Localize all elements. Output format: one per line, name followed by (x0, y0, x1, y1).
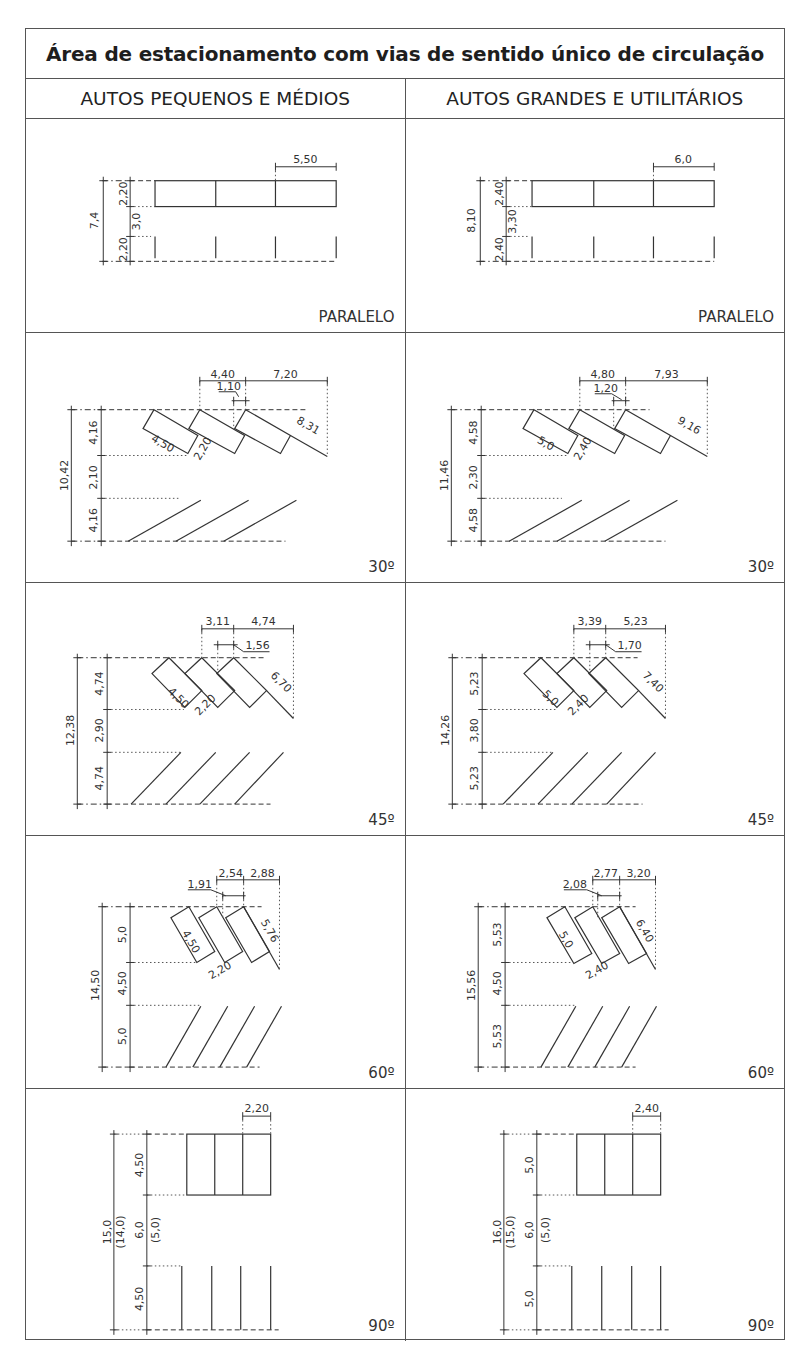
diagram-60-small: 2,54 2,88 1,91 4,50 2,20 5,76 (26, 836, 406, 1088)
dim-depth-top: 4,74 (93, 671, 106, 695)
dim-top-offset: 4,74 (251, 615, 275, 628)
parallel-large-drawing: 6,0 8,10 2,40 3,30 2,40 (406, 119, 785, 332)
dim-depth-bottom: 5,0 (522, 1290, 535, 1307)
dim-diagonal: 5,76 (258, 917, 281, 945)
dim-total-alt: (15,0) (503, 1215, 516, 1248)
dim-depth-bottom: 2,20 (117, 237, 130, 261)
dim-diagonal: 6,40 (632, 917, 655, 945)
dim-stall-length: 4,50 (179, 928, 202, 956)
column-header-small-cars: AUTOS PEQUENOS E MÉDIOS (26, 79, 406, 118)
dim-depth-top: 4,50 (133, 1153, 146, 1177)
parking-layout-table: Área de estacionamento com vias de senti… (25, 28, 785, 1340)
dim-stall-length: 5,0 (555, 929, 575, 951)
dim-stall-length: 4,50 (165, 685, 191, 711)
dim-top-spacing: 3,11 (206, 615, 230, 628)
dim-aisle: 6,0 (133, 1221, 146, 1238)
dim-aisle: 4,50 (116, 971, 129, 995)
angle-label: 45º (748, 811, 774, 829)
dim-top-offset: 2,88 (250, 867, 274, 880)
angle-label: 30º (748, 558, 774, 576)
column-header-large-cars: AUTOS GRANDES E UTILITÁRIOS (406, 79, 785, 118)
dim-top-offset: 5,23 (623, 615, 647, 628)
dim-small-offset: 1,56 (245, 639, 269, 652)
dim-depth-bottom: 4,16 (87, 508, 100, 532)
dim-depth-bottom: 5,0 (116, 1027, 129, 1044)
dim-total: 8,10 (465, 208, 478, 232)
dim-total: 16,0 (490, 1220, 503, 1244)
row-parallel: 5,50 7,4 2,20 3,0 2,20 PARALELO (26, 119, 784, 333)
dim-aisle: 3,30 (506, 209, 519, 233)
diagram-60-large: 2,77 3,20 2,08 5,0 2,40 6,40 (406, 836, 785, 1088)
dim-depth-top: 5,0 (116, 926, 129, 943)
30-large-drawing: 4,80 7,93 1,20 5,0 2,40 9,16 (406, 333, 785, 582)
dim-depth-top: 5,0 (522, 1156, 535, 1173)
angle-label: 60º (748, 1064, 774, 1082)
dim-total: 15,56 (465, 970, 478, 1001)
dim-small-offset: 1,70 (617, 639, 641, 652)
dim-top-spacing: 2,77 (593, 867, 617, 880)
dim-diagonal: 7,40 (639, 669, 665, 695)
60-small-drawing: 2,54 2,88 1,91 4,50 2,20 5,76 (26, 836, 405, 1088)
dim-stall-length: 6,0 (674, 153, 691, 166)
dim-aisle-alt: (5,0) (538, 1217, 551, 1243)
diagram-45-large: 3,39 5,23 1,70 5,0 2,40 7,40 (406, 583, 785, 835)
diagram-90-large: 2,40 16,0 (15,0) 5,0 6,0 (406, 1089, 785, 1341)
dim-top-spacing: 4,80 (590, 368, 614, 381)
dim-stall-length: 4,50 (149, 432, 177, 455)
diagram-30-small: 4,40 7,20 1,10 4,50 2,20 8,31 (26, 333, 406, 582)
row-45-degrees: 3,11 4,74 1,56 4,50 2,20 6,70 (26, 583, 784, 836)
diagram-90-small: 2,20 15,0 (14,0) (26, 1089, 406, 1341)
30-small-drawing: 4,40 7,20 1,10 4,50 2,20 8,31 (26, 333, 405, 582)
dim-total: 14,26 (439, 715, 452, 746)
row-30-degrees: 4,40 7,20 1,10 4,50 2,20 8,31 (26, 333, 784, 583)
dim-stall-width: 2,20 (244, 1102, 268, 1115)
dim-depth-bottom: 5,23 (468, 766, 481, 790)
dim-total: 14,50 (89, 970, 102, 1001)
angle-label: PARALELO (319, 308, 395, 326)
dim-depth-top: 5,53 (491, 922, 504, 946)
dim-aisle-alt: (5,0) (149, 1217, 162, 1243)
dim-stall-width: 2,40 (571, 435, 594, 463)
dim-stall-width: 2,40 (583, 959, 611, 982)
dim-top-offset: 7,93 (654, 368, 678, 381)
dim-stall-width: 2,20 (191, 435, 214, 463)
angle-label: 90º (368, 1317, 394, 1335)
dim-small-offset: 2,08 (562, 878, 586, 891)
dim-total: 7,4 (88, 212, 101, 229)
diagram-parallel-small: 5,50 7,4 2,20 3,0 2,20 PARALELO (26, 119, 406, 332)
dim-top-offset: 7,20 (273, 368, 297, 381)
90-small-drawing: 2,20 15,0 (14,0) (26, 1089, 405, 1341)
dim-depth-bottom: 4,58 (467, 508, 480, 532)
dim-stall-width: 2,20 (206, 959, 234, 982)
diagram-30-large: 4,80 7,93 1,20 5,0 2,40 9,16 (406, 333, 785, 582)
dim-total: 11,46 (438, 460, 451, 491)
dim-stall-length: 5,50 (293, 153, 317, 166)
dim-small-offset: 1,20 (593, 382, 617, 395)
dim-aisle: 2,90 (93, 718, 106, 742)
diagram-parallel-large: 6,0 8,10 2,40 3,30 2,40 PARALELO (406, 119, 785, 332)
dim-aisle: 3,80 (468, 718, 481, 742)
dim-aisle: 4,50 (491, 971, 504, 995)
45-large-drawing: 3,39 5,23 1,70 5,0 2,40 7,40 (406, 583, 785, 835)
angle-label: 60º (368, 1064, 394, 1082)
dim-small-offset: 1,91 (188, 878, 212, 891)
90-large-drawing: 2,40 16,0 (15,0) 5,0 6,0 (406, 1089, 785, 1341)
dim-stall-width: 2,40 (634, 1102, 658, 1115)
dim-depth-top: 4,58 (467, 420, 480, 444)
dim-diagonal: 6,70 (268, 669, 294, 695)
dim-aisle: 2,30 (467, 465, 480, 489)
dim-aisle: 3,0 (130, 213, 143, 230)
angle-label: 90º (748, 1317, 774, 1335)
dim-depth-top: 2,40 (493, 181, 506, 205)
dim-depth-bottom: 4,50 (133, 1287, 146, 1311)
dim-depth-top: 4,16 (87, 420, 100, 444)
dim-total: 15,0 (101, 1220, 114, 1244)
angle-label: 30º (368, 558, 394, 576)
dim-top-offset: 3,20 (626, 867, 650, 880)
diagram-45-small: 3,11 4,74 1,56 4,50 2,20 6,70 (26, 583, 406, 835)
dim-total: 12,38 (64, 715, 77, 746)
dim-small-offset: 1,10 (217, 380, 241, 393)
dim-depth-bottom: 4,74 (93, 766, 106, 790)
column-headers: AUTOS PEQUENOS E MÉDIOS AUTOS GRANDES E … (26, 79, 784, 119)
row-90-degrees: 2,20 15,0 (14,0) (26, 1089, 784, 1341)
